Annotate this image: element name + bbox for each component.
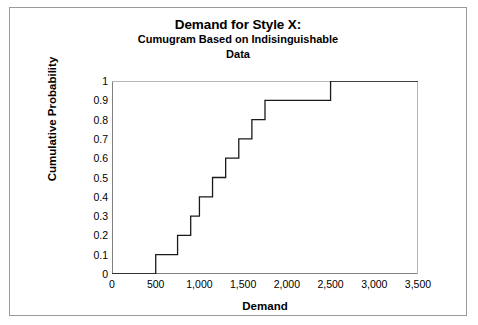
chart-subtitle-line1: Cumugram Based on Indisinguishable xyxy=(10,33,466,47)
y-tick-label: 0.6 xyxy=(93,152,108,164)
x-tick-label: 500 xyxy=(147,278,165,290)
y-tick-label: 0.4 xyxy=(93,191,108,203)
y-axis-title: Cumulative Probability xyxy=(46,29,58,209)
y-tick-label: 0.1 xyxy=(93,249,108,261)
x-tick-label: 3,000 xyxy=(361,278,387,290)
plot-area xyxy=(112,81,418,274)
y-tick-label: 0.3 xyxy=(93,210,108,222)
y-tick-label: 0.9 xyxy=(93,94,108,106)
y-tick-label: 0.8 xyxy=(93,114,108,126)
x-tick-label: 1,500 xyxy=(230,278,256,290)
x-tick-label: 2,000 xyxy=(274,278,300,290)
cumugram-plot xyxy=(112,81,418,274)
y-tick-label: 0.7 xyxy=(93,133,108,145)
y-tick-label: 0 xyxy=(102,268,108,280)
chart-title-block: Demand for Style X: Cumugram Based on In… xyxy=(10,17,466,61)
x-axis-title: Demand xyxy=(112,300,418,312)
x-tick-label: 0 xyxy=(109,278,115,290)
y-axis-tick-labels: 00.10.20.30.40.50.60.70.80.91 xyxy=(66,81,108,274)
x-tick-label: 2,500 xyxy=(317,278,343,290)
y-tick-label: 0.2 xyxy=(93,229,108,241)
x-tick-label: 3,500 xyxy=(405,278,431,290)
x-axis-tick-labels: 05001,0001,5002,0002,5003,0003,500 xyxy=(112,278,418,294)
x-tick-label: 1,000 xyxy=(186,278,212,290)
y-tick-label: 0.5 xyxy=(93,172,108,184)
chart-subtitle-line2: Data xyxy=(10,48,466,62)
page-title: Demand for Style X: xyxy=(10,17,466,32)
y-tick-label: 1 xyxy=(102,75,108,87)
cumulative-step-curve xyxy=(112,81,418,274)
chart-figure: Demand for Style X: Cumugram Based on In… xyxy=(9,7,467,316)
